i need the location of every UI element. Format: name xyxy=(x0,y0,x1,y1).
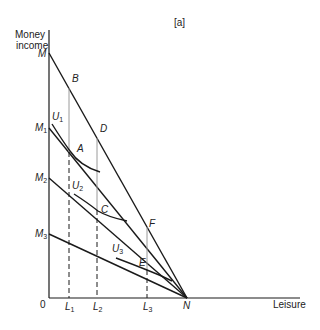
point-C-label: C xyxy=(101,205,108,215)
curve-U3-subscript: 3 xyxy=(119,248,123,255)
point-B-label: B xyxy=(72,74,79,84)
point-M3-subscript: 3 xyxy=(43,233,47,240)
point-M2-label: M2 xyxy=(35,173,47,184)
curve-U1-label: U1 xyxy=(52,112,63,123)
curve-U3-label: U3 xyxy=(112,244,123,255)
budget-line-M2N xyxy=(49,178,187,298)
x-tick-L3-subscript: 3 xyxy=(149,306,153,313)
budget-line-M1N xyxy=(49,128,187,298)
point-M-label: M xyxy=(38,49,46,59)
point-E-label: E xyxy=(139,258,146,268)
x-tick-L1-subscript: 1 xyxy=(71,306,75,313)
origin-label: 0 xyxy=(40,300,46,310)
budget-line-MN xyxy=(49,53,187,298)
point-A-label: A xyxy=(77,144,84,154)
point-M3-label: M3 xyxy=(35,229,47,240)
curve-U2-label: U2 xyxy=(72,181,83,192)
y-axis-label-line1: Money xyxy=(15,30,45,40)
curve-U1-subscript: 1 xyxy=(59,116,63,123)
curve-U2-subscript: 2 xyxy=(79,185,83,192)
point-M2-subscript: 2 xyxy=(43,177,47,184)
point-N-label: N xyxy=(183,301,190,311)
point-M1-subscript: 1 xyxy=(43,127,47,134)
x-tick-L1-label: L1 xyxy=(65,302,74,313)
point-F-label: F xyxy=(149,219,155,229)
x-tick-L2-label: L2 xyxy=(93,302,102,313)
x-tick-L3-label: L3 xyxy=(143,302,152,313)
x-tick-L2-subscript: 2 xyxy=(99,306,103,313)
panel-label: [a] xyxy=(174,18,185,28)
point-M1-label: M1 xyxy=(35,123,47,134)
x-axis-label: Leisure xyxy=(273,300,306,310)
point-D-label: D xyxy=(100,124,107,134)
